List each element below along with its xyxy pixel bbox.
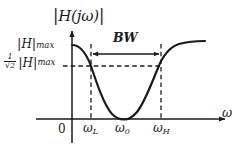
tick-label-omega-H: ωH xyxy=(153,121,170,135)
omega-symbol: ω xyxy=(153,121,163,135)
bandwidth-label: BW xyxy=(113,32,138,45)
omega-0-subscript: 0 xyxy=(125,127,130,136)
fraction-denominator: √2 xyxy=(4,62,16,70)
tick-label-omega-L: ωL xyxy=(83,121,98,135)
h-symbol: H xyxy=(21,37,31,51)
y-axis-title: |H(jω)| xyxy=(53,8,104,24)
fraction-numerator: 1 xyxy=(6,53,15,61)
x-axis-label: ω xyxy=(222,107,232,120)
omega-H-subscript: H xyxy=(163,127,170,136)
tick-label-omega-0: ω0 xyxy=(115,121,130,135)
omega-symbol: ω xyxy=(83,121,93,135)
h-max-subscript: max xyxy=(37,58,55,67)
frequency-response-figure: |H(jω)| |H|max 1 √2 |H|max BW 0 ωL ω0 ωH… xyxy=(0,0,239,157)
h-max-subscript: max xyxy=(36,40,54,50)
omega-symbol: ω xyxy=(115,121,125,135)
abs-bar-right: | xyxy=(99,6,104,25)
magnitude-response-curve xyxy=(72,41,205,120)
tick-label-origin: 0 xyxy=(58,122,66,136)
h-symbol: H xyxy=(23,57,33,69)
omega-L-subscript: L xyxy=(93,127,98,136)
one-over-root-two-fraction: 1 √2 xyxy=(4,53,16,70)
h-max-level-label: |H|max xyxy=(17,37,54,50)
half-power-level-label: 1 √2 |H|max xyxy=(4,54,55,71)
y-axis-title-text: H(jω) xyxy=(58,7,99,25)
